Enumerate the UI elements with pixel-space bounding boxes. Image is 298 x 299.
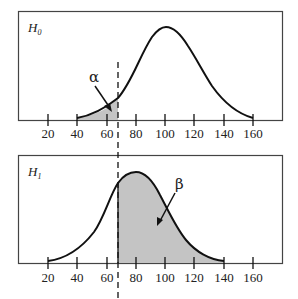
tick-label: 60 bbox=[101, 270, 114, 285]
tick-label: 120 bbox=[184, 270, 204, 285]
alpha-label: α bbox=[89, 68, 99, 86]
tick-label: 20 bbox=[42, 270, 55, 285]
panel-frame bbox=[19, 12, 283, 121]
tick-label: 100 bbox=[155, 126, 175, 141]
tick-label: 160 bbox=[243, 126, 263, 141]
beta-label: β bbox=[175, 175, 184, 193]
tick-label: 40 bbox=[71, 270, 84, 285]
tick-label: 140 bbox=[214, 270, 234, 285]
tick-label: 100 bbox=[155, 270, 175, 285]
panel-h1: 20 40 60 80 100 120 140 160 H1 β bbox=[19, 156, 283, 286]
tick-label: 60 bbox=[101, 126, 114, 141]
h0-curve bbox=[77, 27, 253, 118]
tick-label: 20 bbox=[42, 126, 55, 141]
panel-h0: 20 40 60 80 100 120 140 160 H0 α bbox=[19, 12, 283, 142]
tick-label: 40 bbox=[71, 126, 84, 141]
tick-label: 140 bbox=[214, 126, 234, 141]
h1-title: H1 bbox=[27, 164, 41, 181]
hypothesis-diagram: 20 40 60 80 100 120 140 160 H0 α bbox=[0, 0, 298, 299]
x-axis-labels: 20 40 60 80 100 120 140 160 bbox=[42, 126, 263, 141]
tick-label: 120 bbox=[184, 126, 204, 141]
h0-title: H0 bbox=[27, 20, 41, 37]
tick-label: 80 bbox=[130, 126, 143, 141]
tick-label: 80 bbox=[130, 270, 143, 285]
x-axis-labels: 20 40 60 80 100 120 140 160 bbox=[42, 270, 263, 285]
tick-label: 160 bbox=[243, 270, 263, 285]
